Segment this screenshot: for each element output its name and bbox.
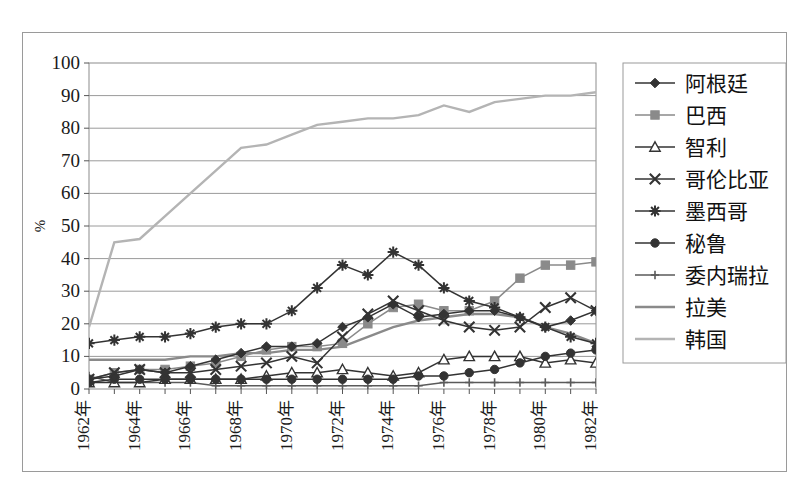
x-axis-tick-label: 1982年: [581, 400, 600, 451]
chart-outer-frame: 0102030405060708090100%1962年1964年1966年19…: [22, 32, 787, 472]
legend-item-label: 委内瑞拉: [685, 264, 769, 288]
y-axis-tick-label: 0: [71, 378, 81, 399]
data-point: [414, 372, 422, 380]
legend-item-label: 拉美: [685, 296, 727, 320]
legend-item-label: 巴西: [685, 104, 727, 128]
legend-item-label: 阿根廷: [685, 72, 748, 96]
data-point: [566, 349, 574, 357]
data-point: [261, 318, 272, 329]
y-axis-title: %: [32, 220, 48, 233]
y-axis-tick-label: 90: [61, 85, 80, 106]
data-point: [338, 375, 346, 383]
data-point: [541, 352, 549, 360]
data-point: [286, 305, 297, 316]
data-point: [516, 359, 524, 367]
data-point: [83, 338, 94, 349]
data-point: [313, 375, 321, 383]
y-axis-tick-label: 30: [61, 280, 80, 301]
y-axis-tick-label: 40: [61, 248, 80, 269]
y-axis-tick-label: 10: [61, 345, 80, 366]
y-axis-tick-label: 100: [52, 52, 81, 73]
x-axis-tick-label: 1980年: [530, 400, 549, 451]
chart-page: 0102030405060708090100%1962年1964年1966年19…: [0, 0, 811, 496]
x-axis-tick-label: 1962年: [74, 400, 93, 451]
data-point: [389, 375, 397, 383]
x-axis-tick-label: 1978年: [480, 400, 499, 451]
x-axis-tick-label: 1966年: [175, 400, 194, 451]
y-axis-tick-label: 50: [61, 215, 80, 236]
data-point: [592, 258, 600, 266]
legend-item-label: 墨西哥: [685, 200, 748, 224]
data-point: [464, 295, 475, 306]
y-axis-tick-label: 60: [61, 182, 80, 203]
legend-item-label: 智利: [685, 136, 727, 160]
x-axis-tick-label: 1964年: [125, 400, 144, 451]
data-point: [541, 261, 549, 269]
data-point: [651, 239, 659, 247]
legend-item-label: 韩国: [685, 328, 727, 352]
line-chart: 0102030405060708090100%1962年1964年1966年19…: [23, 33, 786, 471]
x-axis-tick-label: 1976年: [429, 400, 448, 451]
x-axis-tick-label: 1968年: [226, 400, 245, 451]
data-point: [465, 369, 473, 377]
data-point: [490, 365, 498, 373]
data-point: [212, 375, 220, 383]
data-point: [516, 274, 524, 282]
x-axis-tick-label: 1974年: [378, 400, 397, 451]
data-point: [136, 375, 144, 383]
legend-item-label: 哥伦比亚: [685, 168, 769, 192]
data-point: [590, 338, 601, 349]
y-axis-tick-label: 80: [61, 117, 80, 138]
x-axis-tick-label: 1972年: [328, 400, 347, 451]
data-point: [288, 375, 296, 383]
data-point: [262, 375, 270, 383]
y-axis-tick-label: 70: [61, 150, 80, 171]
legend-item-label: 秘鲁: [685, 232, 727, 256]
data-point: [236, 318, 247, 329]
data-point: [649, 205, 660, 216]
data-point: [651, 111, 659, 119]
y-axis-tick-label: 20: [61, 313, 80, 334]
data-point: [185, 328, 196, 339]
data-point: [237, 375, 245, 383]
data-point: [364, 375, 372, 383]
data-point: [566, 261, 574, 269]
x-axis-tick-label: 1970年: [277, 400, 296, 451]
data-point: [440, 372, 448, 380]
